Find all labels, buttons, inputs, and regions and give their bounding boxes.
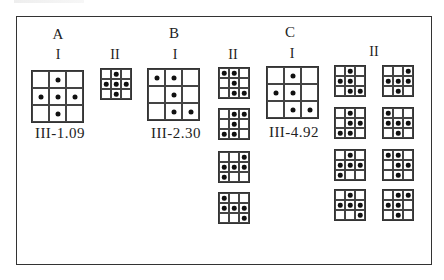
grid-cell-dot bbox=[403, 66, 413, 76]
grid-cell-empty bbox=[383, 86, 393, 96]
grid-cell-dot bbox=[66, 88, 83, 105]
grid-cell-dot bbox=[345, 150, 355, 160]
dot-grid-b-i-1 bbox=[147, 68, 200, 121]
grid-cell-dot bbox=[219, 129, 229, 139]
dot-grid-a-ii-1 bbox=[100, 68, 132, 100]
grid-cell-empty bbox=[267, 67, 284, 84]
grid-cell-empty bbox=[239, 129, 249, 139]
grid-cell-empty bbox=[403, 170, 413, 180]
grid-cell-dot bbox=[393, 150, 403, 160]
grid-cell-empty bbox=[66, 105, 83, 122]
grid-cell-dot bbox=[219, 193, 229, 203]
grid-cell-dot bbox=[355, 210, 365, 220]
grid-cell-empty bbox=[355, 190, 365, 200]
code-label-c-i: III-4.92 bbox=[269, 124, 319, 141]
grid-cell-empty bbox=[101, 69, 111, 79]
grid-cell-dot bbox=[393, 128, 403, 138]
grid-cell-dot bbox=[355, 118, 365, 128]
grid-cell-dot bbox=[239, 109, 249, 119]
grid-cell-dot bbox=[403, 160, 413, 170]
grid-cell-dot bbox=[32, 88, 49, 105]
grid-cell-empty bbox=[345, 210, 355, 220]
grid-cell-empty bbox=[383, 128, 393, 138]
grid-cell-empty bbox=[229, 172, 239, 182]
grid-cell-dot bbox=[403, 118, 413, 128]
dot-grid-b-ii-4 bbox=[218, 192, 250, 224]
grid-cell-dot bbox=[284, 101, 301, 118]
grid-cell-dot bbox=[335, 160, 345, 170]
grid-cell-dot bbox=[49, 88, 66, 105]
grid-cell-empty bbox=[393, 108, 403, 118]
grid-cell-empty bbox=[403, 86, 413, 96]
grid-cell-dot bbox=[345, 86, 355, 96]
grid-cell-dot bbox=[239, 152, 249, 162]
grid-cell-empty bbox=[239, 68, 249, 78]
grid-cell-empty bbox=[355, 150, 365, 160]
grid-cell-dot bbox=[229, 162, 239, 172]
grid-cell-dot bbox=[345, 200, 355, 210]
grid-cell-dot bbox=[111, 89, 121, 99]
grid-cell-dot bbox=[121, 79, 131, 89]
grid-cell-empty bbox=[335, 108, 345, 118]
roman-label-b-ii: II bbox=[228, 47, 237, 63]
grid-cell-empty bbox=[219, 152, 229, 162]
grid-cell-dot bbox=[345, 66, 355, 76]
grid-cell-dot bbox=[345, 190, 355, 200]
grid-cell-dot bbox=[165, 69, 182, 86]
grid-cell-dot bbox=[148, 69, 165, 86]
grid-cell-dot bbox=[284, 67, 301, 84]
dot-grid-c-ii-8 bbox=[382, 189, 414, 221]
grid-cell-dot bbox=[335, 76, 345, 86]
grid-cell-dot bbox=[239, 213, 249, 223]
grid-cell-dot bbox=[355, 86, 365, 96]
code-label-b-i: III-2.30 bbox=[151, 125, 201, 142]
section-label-a: A bbox=[53, 26, 64, 43]
grid-cell-dot bbox=[403, 76, 413, 86]
grid-cell-dot bbox=[111, 69, 121, 79]
grid-cell-empty bbox=[182, 86, 199, 103]
grid-cell-empty bbox=[219, 119, 229, 129]
grid-cell-dot bbox=[383, 76, 393, 86]
grid-cell-dot bbox=[49, 105, 66, 122]
grid-cell-dot bbox=[301, 101, 318, 118]
grid-cell-dot bbox=[182, 103, 199, 120]
grid-cell-empty bbox=[403, 128, 413, 138]
grid-cell-empty bbox=[229, 213, 239, 223]
grid-cell-dot bbox=[229, 119, 239, 129]
grid-cell-dot bbox=[165, 103, 182, 120]
grid-cell-empty bbox=[383, 210, 393, 220]
grid-cell-dot bbox=[284, 84, 301, 101]
grid-cell-empty bbox=[32, 105, 49, 122]
grid-cell-dot bbox=[335, 170, 345, 180]
grid-cell-empty bbox=[383, 170, 393, 180]
roman-label-c-i: I bbox=[290, 46, 295, 62]
grid-cell-dot bbox=[219, 203, 229, 213]
grid-cell-dot bbox=[229, 109, 239, 119]
grid-cell-empty bbox=[383, 190, 393, 200]
grid-cell-empty bbox=[239, 119, 249, 129]
grid-cell-empty bbox=[239, 193, 249, 203]
grid-cell-empty bbox=[335, 150, 345, 160]
section-label-c: C bbox=[285, 24, 295, 41]
grid-cell-empty bbox=[355, 128, 365, 138]
grid-cell-dot bbox=[393, 86, 403, 96]
grid-cell-empty bbox=[355, 66, 365, 76]
dot-grid-c-ii-4 bbox=[382, 107, 414, 139]
section-label-b: B bbox=[169, 25, 179, 42]
dot-grid-c-ii-2 bbox=[382, 65, 414, 97]
grid-cell-dot bbox=[229, 88, 239, 98]
grid-cell-empty bbox=[148, 103, 165, 120]
grid-cell-empty bbox=[383, 160, 393, 170]
grid-cell-dot bbox=[219, 68, 229, 78]
grid-cell-empty bbox=[355, 108, 365, 118]
roman-label-c-ii: II bbox=[369, 44, 378, 60]
grid-cell-dot bbox=[335, 200, 345, 210]
grid-cell-dot bbox=[239, 88, 249, 98]
grid-cell-dot bbox=[393, 118, 403, 128]
grid-cell-empty bbox=[239, 78, 249, 88]
grid-cell-empty bbox=[335, 118, 345, 128]
grid-cell-dot bbox=[393, 170, 403, 180]
grid-cell-empty bbox=[148, 86, 165, 103]
grid-cell-empty bbox=[393, 66, 403, 76]
grid-cell-dot bbox=[229, 78, 239, 88]
